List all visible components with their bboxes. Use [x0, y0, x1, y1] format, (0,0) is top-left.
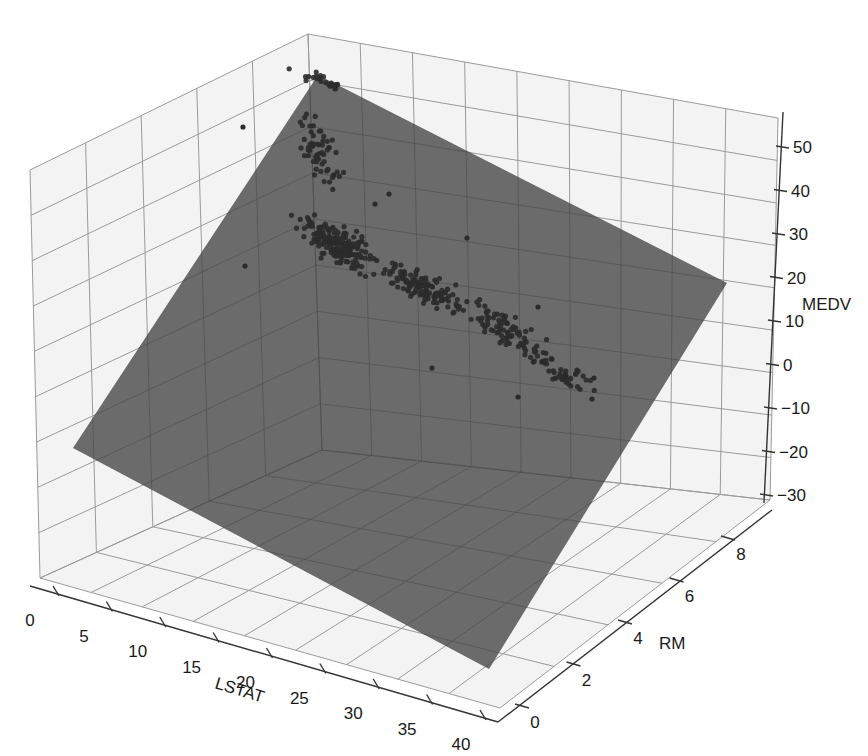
z-tick-label: 50 [793, 138, 812, 157]
data-point [445, 304, 450, 309]
data-point [464, 235, 469, 240]
data-point [535, 304, 540, 309]
data-point [557, 371, 562, 376]
data-point [540, 358, 545, 363]
data-point [391, 281, 396, 286]
data-point [492, 312, 497, 317]
data-point [531, 360, 536, 365]
data-point [558, 367, 563, 372]
data-point [298, 217, 303, 222]
data-point [402, 269, 407, 274]
data-point [461, 308, 466, 313]
data-point [332, 86, 337, 91]
data-point [429, 365, 434, 370]
data-point [434, 300, 439, 305]
data-point [480, 316, 485, 321]
data-point [327, 240, 332, 245]
data-point [415, 267, 420, 272]
data-point [395, 285, 400, 290]
data-point [499, 333, 504, 338]
data-point [311, 232, 316, 237]
z-axis-label: MEDV [802, 295, 852, 314]
data-point [371, 272, 376, 277]
data-point [321, 251, 326, 256]
data-point [325, 167, 330, 172]
data-point [301, 234, 306, 239]
data-point [515, 331, 520, 336]
data-point [419, 283, 424, 288]
data-point [312, 173, 317, 178]
data-point [332, 241, 337, 246]
data-point [319, 255, 324, 260]
data-point [363, 274, 368, 279]
data-point [405, 280, 410, 285]
data-point [551, 368, 556, 373]
y-tick [567, 662, 581, 666]
z-tick-label: −20 [779, 443, 808, 462]
data-point [351, 234, 356, 239]
data-point [317, 128, 322, 133]
data-point [453, 282, 458, 287]
data-point [312, 212, 317, 217]
data-point [455, 297, 460, 302]
data-point [563, 374, 568, 379]
data-point [300, 123, 305, 128]
data-point [322, 159, 327, 164]
x-tick-label: 25 [290, 689, 309, 708]
data-point [322, 236, 327, 241]
data-point [535, 353, 540, 358]
data-point [432, 278, 437, 283]
data-point [484, 309, 489, 314]
z-tick-label: −10 [781, 399, 810, 418]
data-point [408, 272, 413, 277]
data-point [334, 260, 339, 265]
data-point [446, 298, 451, 303]
data-point [302, 226, 307, 231]
x-tick [267, 648, 273, 658]
data-point [353, 256, 358, 261]
data-point [358, 254, 363, 259]
data-point [363, 242, 368, 247]
z-tick-label: 30 [789, 225, 808, 244]
x-tick-label: 30 [344, 704, 363, 723]
data-point [576, 369, 581, 374]
data-point [500, 320, 505, 325]
y-tick [721, 536, 735, 540]
data-point [322, 179, 327, 184]
x-tick [480, 710, 486, 720]
data-point [469, 317, 474, 322]
data-point [485, 314, 490, 319]
data-point [325, 148, 330, 153]
data-point [549, 357, 554, 362]
data-point [335, 170, 340, 175]
data-point [354, 229, 359, 234]
x-tick [53, 586, 59, 596]
data-point [330, 138, 335, 143]
data-point [338, 252, 343, 257]
data-point [287, 66, 292, 71]
data-point [350, 263, 355, 268]
data-point [318, 169, 323, 174]
3d-scatter-chart: 0510152025303540 02468 50403020100−10−20… [0, 0, 868, 756]
data-point [563, 368, 568, 373]
x-tick [213, 633, 219, 643]
data-point [330, 247, 335, 252]
data-point [321, 152, 326, 157]
data-point [311, 141, 316, 146]
y-tick-label: 0 [530, 713, 539, 732]
data-point [422, 297, 427, 302]
data-point [368, 253, 373, 258]
z-tick-label: 10 [785, 312, 804, 331]
data-point [454, 303, 459, 308]
data-point [318, 79, 323, 84]
data-point [528, 355, 533, 360]
data-point [410, 277, 415, 282]
data-point [302, 153, 307, 158]
data-point [314, 237, 319, 242]
data-point [408, 294, 413, 299]
data-point [320, 229, 325, 234]
data-point [398, 262, 403, 267]
data-point [302, 115, 307, 120]
data-point [497, 327, 502, 332]
z-tick-label: 40 [791, 182, 810, 201]
